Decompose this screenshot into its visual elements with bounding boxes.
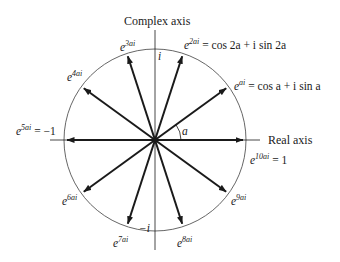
root-label-10: e10ai = 1	[250, 153, 287, 167]
root-arrow-8	[155, 140, 182, 224]
tick-minus-i: −i	[139, 222, 150, 234]
angle-a-label: a	[182, 125, 188, 137]
root-label-8: e8ai	[177, 236, 192, 250]
root-arrow-7	[128, 140, 155, 224]
root-arrow-3	[128, 56, 155, 140]
angle-arc	[176, 125, 181, 140]
origin-dot	[153, 138, 158, 143]
root-arrow-4	[84, 88, 155, 140]
root-label-4: e4ai	[67, 70, 82, 84]
root-label-5: e5ai = −1	[16, 124, 56, 138]
unit-circle-diagram: Complex axis Real axis i −i a eai = cos …	[0, 0, 340, 262]
real-axis-label: Real axis	[268, 134, 312, 146]
tick-i: i	[158, 50, 161, 62]
root-label-6: e6ai	[62, 194, 77, 208]
root-label-9: e9ai	[231, 194, 246, 208]
root-arrow-9	[155, 140, 226, 192]
root-label-2: e2ai = cos 2a + i sin 2a	[184, 38, 286, 52]
root-label-1: eai = cos a + i sin a	[234, 79, 321, 93]
root-label-7: e7ai	[113, 236, 128, 250]
root-label-3: e3ai	[120, 40, 135, 54]
complex-axis-label: Complex axis	[124, 15, 190, 27]
root-arrow-6	[84, 140, 155, 192]
root-arrow-1	[155, 88, 226, 140]
